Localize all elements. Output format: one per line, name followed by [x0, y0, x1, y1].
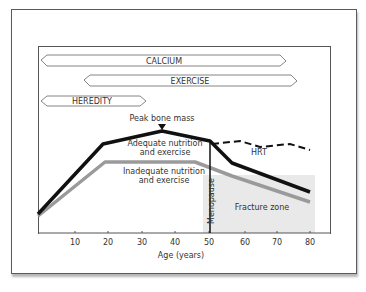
- svg-text:30: 30: [137, 238, 147, 247]
- svg-text:10: 10: [70, 238, 80, 247]
- calcium-label: CALCIUM: [146, 57, 182, 66]
- adequate-label-1: Adequate nutrition: [127, 139, 202, 148]
- svg-text:40: 40: [170, 238, 180, 247]
- inadequate-label-2: and exercise: [139, 176, 190, 185]
- chart-svg: CALCIUM EXERCISE HEREDITY Menopause Peak…: [0, 0, 366, 292]
- peak-marker-icon: [158, 124, 166, 130]
- x-tick-labels: 10 20 30 40 50 60 70 80: [70, 238, 315, 247]
- x-axis-label: Age (years): [158, 251, 204, 260]
- exercise-label: EXERCISE: [171, 77, 210, 86]
- inadequate-label-1: Inadequate nutrition: [123, 167, 205, 176]
- peak-label: Peak bone mass: [129, 114, 194, 123]
- svg-text:50: 50: [204, 238, 214, 247]
- svg-text:60: 60: [240, 238, 250, 247]
- svg-text:70: 70: [272, 238, 282, 247]
- fracture-zone-label: Fracture zone: [235, 203, 290, 212]
- svg-text:80: 80: [305, 238, 315, 247]
- svg-text:20: 20: [103, 238, 113, 247]
- heredity-label: HEREDITY: [72, 97, 112, 106]
- menopause-label: Menopause: [207, 178, 216, 224]
- hrt-label: HRT: [251, 148, 267, 157]
- adequate-label-2: and exercise: [140, 148, 191, 157]
